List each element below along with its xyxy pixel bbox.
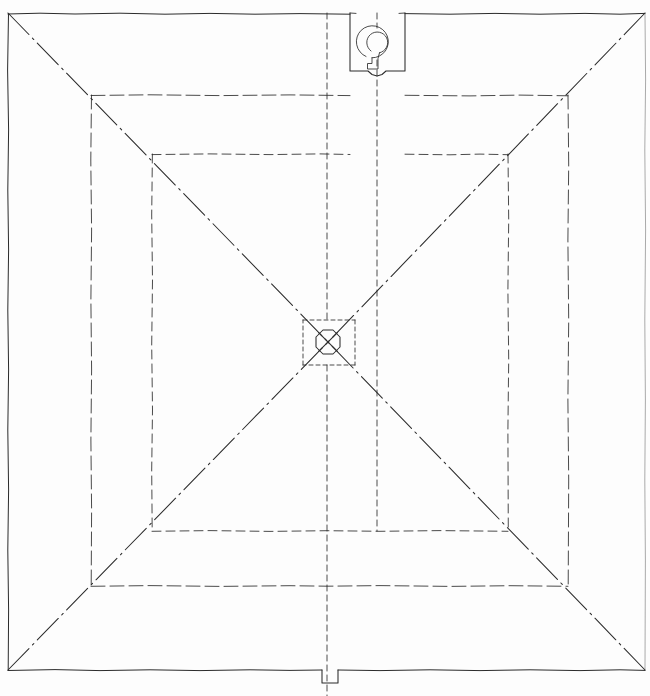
eaves-edge-left [91,95,92,586]
spiral-tail [368,53,380,69]
chimney-box [350,13,405,76]
drawing-canvas [0,0,650,696]
slope-edge-left [152,154,153,531]
bottom-notch [322,670,338,683]
hip-line-bottom-left [8,342,328,670]
hip-line-top-right [328,13,645,342]
outer-edge-bottom-right [338,670,645,671]
outer-edge-bottom-left [8,670,322,671]
hip-line-top-left [8,13,328,342]
outer-edge-right [645,14,646,670]
spiral-inner-arc [367,32,388,53]
eaves-edge-right [568,95,569,586]
outer-edge-top-left [8,13,350,14]
roof-plan-svg [0,0,650,696]
outer-edge-top-right [405,13,645,14]
spiral-outer-arc [356,26,388,58]
outer-edge-left [8,14,9,670]
eaves-edge-top-left [91,95,350,96]
slope-edge-bottom [152,531,508,532]
eaves-edge-bottom [91,586,568,587]
hip-lines [8,13,645,670]
ceiling-rose [303,320,355,365]
slope-edge-top-left [152,154,350,155]
centerlines [327,13,377,696]
hip-line-bottom-right [328,342,645,670]
slope-edge-top-right [405,154,508,155]
eaves-edge-top-right [405,95,568,96]
chimney-box-outline [350,13,405,76]
spiral-scroll-icon [356,26,388,69]
slope-edge-right [508,154,509,531]
